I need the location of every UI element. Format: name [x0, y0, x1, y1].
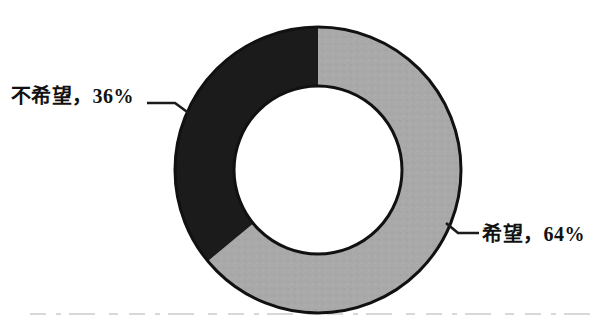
leader-line-left: [147, 103, 190, 114]
donut-outline-inner: [234, 86, 402, 254]
label-callout-not-hope: 不希望，36%: [0, 84, 134, 108]
donut-chart: [0, 0, 605, 336]
label-callout-hope: 希望，64%: [482, 222, 585, 246]
slice-不希望: [175, 27, 318, 261]
figure: 不希望，36% 希望，64%: [0, 0, 605, 336]
